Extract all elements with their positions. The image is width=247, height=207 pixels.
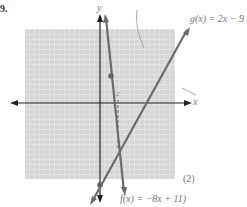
tick-label-2: 2 (116, 90, 120, 98)
point-g-0--9 (97, 182, 103, 188)
graph (0, 0, 247, 207)
pencil-mark (182, 88, 196, 95)
x-axis-arrow-left (10, 100, 18, 106)
problem-number: 9. (0, 3, 8, 14)
point-f-1-3 (108, 73, 114, 79)
g-label: g(x) = 2x − 9 (190, 13, 244, 24)
x-axis-arrow-right (184, 100, 192, 106)
line-f-arrow-top (103, 14, 109, 23)
x-axis-label: x (193, 96, 197, 107)
f-label: f(x) = −8x + 11) (120, 193, 186, 204)
y-axis-label: y (97, 2, 101, 13)
y-axis-arrow-up (97, 14, 103, 22)
answer-label: (2) (183, 173, 195, 184)
line-g-arrow-bottom (90, 196, 97, 205)
y-axis-arrow-down (97, 195, 103, 203)
